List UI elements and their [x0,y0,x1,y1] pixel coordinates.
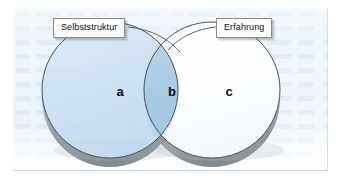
callout-label-selbststruktur[interactable]: Selbststruktur [53,18,125,38]
region-label-b: b [168,85,176,98]
callout-left-text: Selbststruktur [61,22,117,32]
callout-label-erfahrung[interactable]: Erfahrung [216,18,272,38]
region-label-c: c [225,85,232,98]
callout-right-text: Erfahrung [224,22,264,32]
region-label-a: a [116,85,123,98]
diagram-canvas: Selbststruktur Erfahrung a b c [0,0,340,179]
